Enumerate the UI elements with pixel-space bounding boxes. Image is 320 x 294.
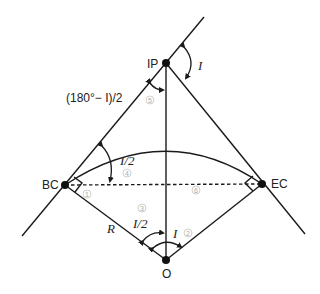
svg-text:1: 1	[85, 191, 89, 198]
svg-text:3: 3	[140, 205, 144, 212]
tangent-line-forward	[166, 63, 305, 234]
angle-arc-ip-half	[150, 83, 163, 90]
label-ip: IP	[147, 57, 158, 71]
circled-number-1: 1	[83, 190, 91, 198]
circled-number-5: 5	[146, 96, 154, 104]
radius-line-ec	[166, 184, 262, 260]
circular-curve-diagram: IP BC EC O I (180°− I)/2 I/2 I/2 I R 1 2…	[0, 0, 320, 294]
angle-arc-i-o	[153, 242, 181, 248]
svg-text:5: 5	[148, 97, 152, 104]
long-chord	[65, 184, 262, 185]
angle-arc-half-i-o	[143, 233, 163, 241]
label-bc: BC	[42, 178, 59, 192]
point-o	[162, 256, 170, 264]
label-half-i-bc: I/2	[119, 153, 135, 168]
label-ec: EC	[271, 177, 288, 191]
point-ec	[258, 180, 266, 188]
svg-text:4: 4	[125, 170, 129, 177]
circled-number-6: 6	[192, 186, 200, 194]
label-half-i-o: I/2	[132, 216, 148, 231]
label-i-o: I	[172, 226, 178, 241]
curve-arc	[65, 151, 262, 185]
radius-line-bc	[65, 185, 166, 260]
svg-text:6: 6	[194, 187, 198, 194]
point-bc	[61, 181, 69, 189]
tangent-line-back	[22, 17, 204, 236]
point-ip	[162, 59, 170, 67]
label-i-top: I	[197, 58, 203, 73]
label-ip-angle: (180°− I)/2	[66, 91, 123, 105]
circled-number-2: 2	[184, 229, 192, 237]
circled-number-3: 3	[138, 204, 146, 212]
label-radius: R	[106, 221, 115, 236]
angle-arc-i-top	[184, 47, 191, 78]
label-o: O	[162, 267, 171, 281]
circled-number-4: 4	[123, 169, 131, 177]
svg-text:2: 2	[186, 230, 190, 237]
